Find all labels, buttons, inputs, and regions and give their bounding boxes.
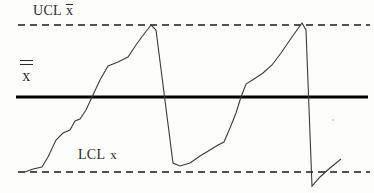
x-bar-symbol: x — [66, 3, 73, 18]
control-chart-canvas — [0, 0, 374, 193]
control-chart: UCLx x LCLx — [0, 0, 374, 193]
data-series-group — [25, 23, 341, 186]
stray-mark — [332, 119, 334, 121]
ucl-symbol-glyph: x — [66, 3, 73, 18]
center-line-label: x — [20, 60, 33, 84]
ucl-label-text: UCL — [33, 3, 62, 18]
control-limit-lines — [16, 25, 370, 172]
lcl-symbol-glyph: x — [110, 147, 117, 162]
lcl-label-text: LCL — [78, 147, 105, 162]
center-symbol-glyph: x — [20, 68, 33, 84]
lcl-label: LCLx — [78, 148, 117, 162]
process-measurement-line — [25, 23, 341, 186]
ucl-label: UCLx — [33, 3, 73, 18]
double-bar-marks — [20, 60, 33, 65]
